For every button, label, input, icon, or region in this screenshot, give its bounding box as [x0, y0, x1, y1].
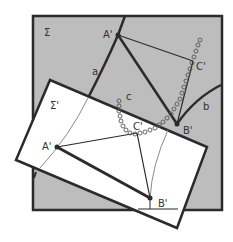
- label-c-upper: C': [196, 61, 206, 72]
- label-sigma: Σ: [44, 27, 50, 38]
- label-curve-b: b: [203, 101, 209, 112]
- diagram-canvas: Σ A' a C' c b B' Σ' C' A' B': [0, 0, 233, 242]
- label-sigma-prime: Σ': [50, 100, 59, 111]
- label-a-lower: A': [42, 141, 52, 152]
- point-b-upper: [175, 122, 180, 127]
- point-b-lower: [148, 196, 153, 201]
- label-curve-c: c: [126, 91, 132, 102]
- label-b-upper: B': [183, 125, 193, 136]
- label-curve-a: a: [92, 66, 98, 77]
- label-a-upper: A': [103, 29, 113, 40]
- point-a-upper: [116, 33, 121, 38]
- label-c-lower: C': [133, 121, 143, 132]
- point-a-lower: [55, 145, 60, 150]
- label-b-lower: B': [158, 198, 168, 209]
